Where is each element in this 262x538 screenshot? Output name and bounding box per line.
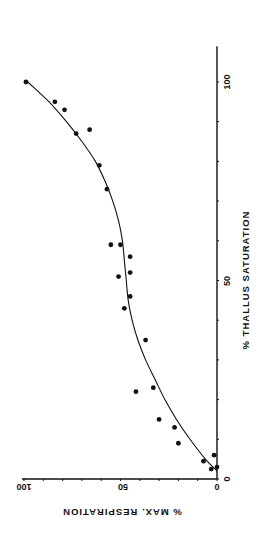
data-point — [74, 131, 79, 136]
data-point — [97, 163, 102, 168]
data-point — [128, 270, 133, 275]
data-point — [201, 459, 206, 464]
data-point — [116, 274, 121, 279]
data-point — [215, 465, 220, 470]
data-point — [134, 389, 139, 394]
data-point — [122, 306, 127, 311]
data-point — [24, 80, 29, 85]
data-point — [128, 254, 133, 259]
x-tick-label-0: 0 — [222, 476, 232, 481]
data-point — [176, 441, 181, 446]
data-point — [151, 385, 156, 390]
data-point — [128, 294, 133, 299]
data-point — [157, 417, 162, 422]
axes — [22, 46, 219, 481]
data-point — [172, 425, 177, 430]
curve-path — [28, 82, 217, 471]
data-point — [209, 467, 214, 472]
y-axis-label: % MAX. RESPIRATION — [62, 507, 182, 518]
data-points — [24, 80, 220, 472]
data-point — [52, 99, 57, 104]
x-tick-label-100: 100 — [222, 74, 232, 89]
y-tick-label-0: 0 — [214, 482, 219, 492]
data-point — [212, 453, 217, 458]
x-tick-label-50: 50 — [222, 276, 232, 286]
x-axis-label: % THALLUS SATURATION — [240, 211, 251, 350]
y-tick-label-50: 50 — [118, 482, 128, 492]
data-point — [105, 187, 110, 192]
chart: 0 50 100 0 50 100 % THALLUS SATURATION %… — [0, 0, 262, 538]
data-point — [143, 338, 148, 343]
data-point — [108, 242, 113, 247]
y-tick-label-100: 100 — [16, 482, 31, 492]
fitted-curve — [28, 82, 217, 471]
data-point — [118, 242, 123, 247]
data-point — [87, 127, 92, 132]
data-point — [62, 107, 67, 112]
